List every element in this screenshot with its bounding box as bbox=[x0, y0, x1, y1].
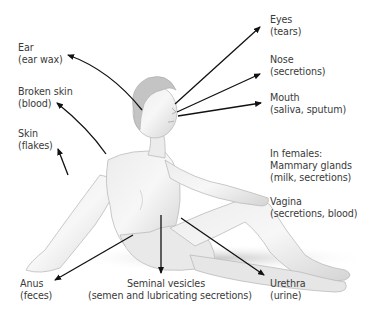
label-title: Anus bbox=[20, 278, 52, 290]
label-skin: Skin (flakes) bbox=[18, 128, 53, 152]
arrow-skin bbox=[58, 149, 68, 175]
label-title: In females: bbox=[270, 148, 352, 160]
label-detail: (secretions) bbox=[270, 66, 325, 78]
label-title: Skin bbox=[18, 128, 53, 140]
label-title: Vagina bbox=[270, 196, 357, 208]
label-detail: (urine) bbox=[270, 290, 306, 302]
label-title: Ear bbox=[18, 42, 63, 54]
label-title: Nose bbox=[270, 54, 325, 66]
label-detail: (feces) bbox=[20, 290, 52, 302]
label-title: Mammary glands bbox=[270, 160, 352, 172]
label-seminal-vesicles: Seminal vesicles (semen and lubricating … bbox=[88, 278, 244, 302]
label-ear: Ear (ear wax) bbox=[18, 42, 63, 66]
label-title: Urethra bbox=[270, 278, 306, 290]
label-eyes: Eyes (tears) bbox=[270, 14, 301, 38]
label-detail: (semen and lubricating secretions) bbox=[88, 290, 244, 302]
label-detail: (blood) bbox=[18, 98, 73, 110]
label-title: Seminal vesicles bbox=[88, 278, 244, 290]
arrow-mouth bbox=[178, 103, 261, 116]
label-detail: (milk, secretions) bbox=[270, 172, 352, 184]
label-detail: (tears) bbox=[270, 26, 301, 38]
label-mammary-glands: In females: Mammary glands (milk, secret… bbox=[270, 148, 352, 184]
arrow-nose bbox=[177, 74, 260, 112]
label-detail: (secretions, blood) bbox=[270, 208, 357, 220]
label-title: Mouth bbox=[270, 92, 346, 104]
label-urethra: Urethra (urine) bbox=[270, 278, 306, 302]
label-broken-skin: Broken skin (blood) bbox=[18, 86, 73, 110]
label-detail: (ear wax) bbox=[18, 54, 63, 66]
label-detail: (saliva, sputum) bbox=[270, 104, 346, 116]
arrow-eyes bbox=[175, 27, 260, 104]
label-anus: Anus (feces) bbox=[20, 278, 52, 302]
label-nose: Nose (secretions) bbox=[270, 54, 325, 78]
label-title: Eyes bbox=[270, 14, 301, 26]
label-detail: (flakes) bbox=[18, 140, 53, 152]
label-mouth: Mouth (saliva, sputum) bbox=[270, 92, 346, 116]
label-title: Broken skin bbox=[18, 86, 73, 98]
arrow-ear bbox=[68, 55, 142, 110]
arrow-broken-skin bbox=[57, 103, 106, 154]
label-vagina: Vagina (secretions, blood) bbox=[270, 196, 357, 220]
